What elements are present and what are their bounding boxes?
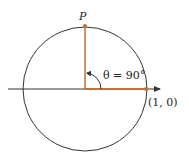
point-p-label: P (78, 10, 87, 23)
point-p (83, 24, 87, 28)
unit-circle-diagram: P θ = 90° (1, 0) (0, 0, 189, 163)
angle-label: θ = 90° (103, 69, 145, 82)
point-1-0 (144, 87, 148, 91)
point-coord-label: (1, 0) (148, 96, 178, 109)
angle-arc-icon (87, 73, 101, 89)
